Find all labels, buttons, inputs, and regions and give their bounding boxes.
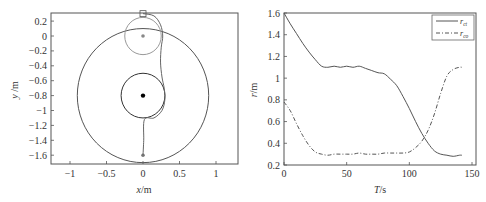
x-tick-label: 50 [342, 168, 352, 179]
left-y-ticks: 0.20−0.2−0.4−0.6−0.8−1−1.2−1.4−1.6 [29, 16, 54, 161]
start-point [141, 34, 145, 38]
y-tick-label: −1 [36, 105, 47, 116]
x-tick-label: 0 [141, 168, 146, 179]
radius-time-plot: 050100150 0.20.40.60.811.21.41.6 T/s r/m… [248, 8, 480, 196]
y-tick-label: 1.4 [268, 29, 281, 40]
x-tick-label: 150 [465, 168, 480, 179]
plot-shapes [77, 11, 208, 163]
right-y-axis-label: r/m [248, 83, 259, 98]
series-r-co [284, 67, 462, 155]
figure: −1−0.500.51 0.20−0.2−0.4−0.6−0.8−1−1.2−1… [0, 0, 486, 202]
y-tick-label: −1.2 [29, 120, 47, 131]
x-tick-label: −1 [65, 168, 76, 179]
y-tick-label: 0 [42, 31, 47, 42]
y-tick-label: 1 [275, 73, 280, 84]
x-tick-label: 0.5 [173, 168, 186, 179]
y-tick-label: −1.6 [29, 150, 47, 161]
y-tick-label: 0.2 [35, 16, 48, 27]
trajectory-plot: −1−0.500.51 0.20−0.2−0.4−0.6−0.8−1−1.2−1… [9, 11, 238, 195]
legend: rct rco [432, 15, 474, 40]
y-tick-label: −0.4 [29, 60, 47, 71]
y-tick-label: 0.4 [268, 138, 281, 149]
y-tick-label: 1.6 [268, 8, 281, 19]
x-tick-label: 0 [282, 168, 287, 179]
right-x-axis-label: T/s [374, 184, 386, 195]
left-y-axis-label: y /m [9, 81, 20, 100]
x-tick-label: 1 [214, 168, 219, 179]
x-tick-label: 100 [402, 168, 417, 179]
left-x-axis-label: x/m [135, 184, 151, 195]
center-point [141, 93, 145, 97]
y-tick-label: −1.4 [29, 135, 47, 146]
y-tick-label: −0.2 [29, 45, 47, 56]
y-tick-label: −0.8 [29, 90, 47, 101]
y-tick-label: 0.6 [268, 116, 281, 127]
y-tick-label: 0.2 [268, 160, 281, 171]
y-tick-label: 1.2 [268, 51, 281, 62]
y-tick-label: −0.6 [29, 75, 47, 86]
y-tick-label: 0.8 [268, 94, 281, 105]
x-tick-label: −0.5 [97, 168, 115, 179]
